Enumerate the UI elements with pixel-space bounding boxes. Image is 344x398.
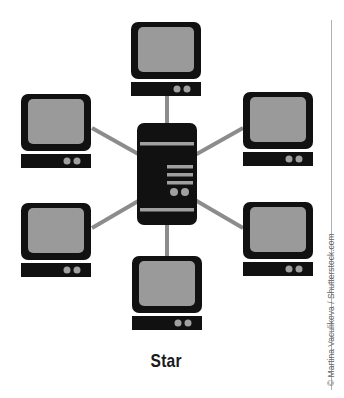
upper-right-computer-icon	[243, 92, 313, 166]
link-upper-left	[92, 128, 140, 155]
lower-left-computer-icon	[21, 203, 91, 277]
server-icon	[137, 123, 197, 225]
network-graphic	[0, 0, 344, 398]
top-computer-icon	[131, 22, 201, 96]
star-topology-diagram: Star © Martina Vaculikova / Shutterstock…	[0, 0, 344, 398]
upper-left-computer-icon	[21, 94, 91, 168]
image-credit: © Martina Vaculikova / Shutterstock.com	[326, 233, 336, 386]
lower-right-computer-icon	[243, 202, 313, 276]
link-upper-right	[195, 128, 243, 155]
bottom-computer-icon	[132, 256, 202, 330]
diagram-title: Star	[30, 350, 302, 372]
link-lower-left	[92, 200, 140, 228]
link-lower-right	[195, 200, 243, 228]
